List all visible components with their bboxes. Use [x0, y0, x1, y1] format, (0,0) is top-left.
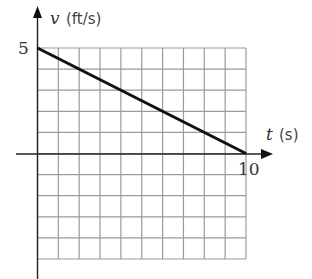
velocity-time-graph: v (ft/s) t (s) 5 10: [0, 0, 312, 279]
y-axis-var: v: [50, 8, 60, 28]
t-axis-unit: (s): [279, 126, 299, 144]
v-axis-arrow-icon: [33, 6, 42, 18]
y-tick-label-5: 5: [18, 38, 29, 58]
t-axis-arrow-icon: [261, 149, 273, 159]
x-tick-label-10: 10: [238, 159, 260, 179]
t-axis-var: t: [266, 124, 273, 144]
y-axis-unit: (ft/s): [66, 10, 101, 28]
